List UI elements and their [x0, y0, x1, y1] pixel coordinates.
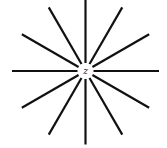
- ray-line: [22, 34, 79, 67]
- ray-line: [90, 7, 123, 64]
- ray-line: [90, 78, 123, 135]
- ray-line: [92, 75, 149, 108]
- center-label: z: [82, 66, 88, 76]
- ray-line: [22, 75, 79, 108]
- radial-star-diagram: z: [0, 0, 167, 148]
- ray-line: [49, 7, 82, 64]
- ray-line: [49, 78, 82, 135]
- ray-line: [92, 34, 149, 67]
